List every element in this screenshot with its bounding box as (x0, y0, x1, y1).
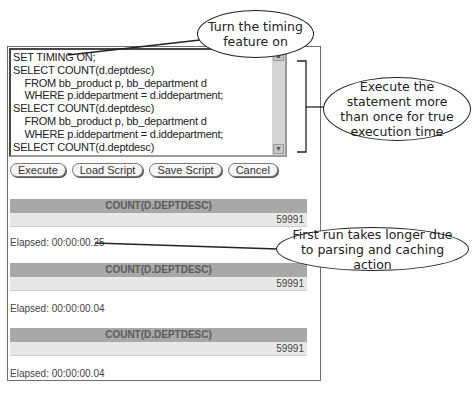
callout-timing: Turn the timing feature on (197, 10, 314, 58)
callout-leader-lines (0, 0, 473, 395)
callout-first-run: First run takes longer due to parsing an… (276, 227, 469, 271)
callout-repeat-execution: Execute the statement more than once for… (323, 77, 471, 141)
